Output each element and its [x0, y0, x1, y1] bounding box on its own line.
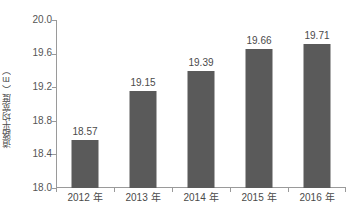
- y-tick-label: 18.4: [20, 149, 52, 159]
- y-tick-label: 18.0: [20, 183, 52, 193]
- x-cat-label: 2015 年: [241, 192, 276, 204]
- bar-group: 19.15: [114, 20, 172, 188]
- bar-group: 19.71: [288, 20, 346, 188]
- bar-chart: 道路平均宽度（m） 20.0 19.6 19.2 18.8 18.4 18.0 …: [0, 0, 355, 213]
- x-axis-category-labels: 2012 年 2013 年 2014 年 2015 年 2016 年: [56, 192, 346, 208]
- x-cat-label: 2014 年: [183, 192, 218, 204]
- bar-group: 19.39: [172, 20, 230, 188]
- bar[interactable]: [72, 140, 99, 188]
- plot-area: 18.57 19.15 19.39 19.66 19.71: [56, 20, 346, 188]
- y-tick-label: 19.2: [20, 82, 52, 92]
- x-cat-label: 2016 年: [299, 192, 334, 204]
- y-axis-title: 道路平均宽度（m）: [1, 50, 17, 165]
- bar[interactable]: [246, 49, 273, 188]
- x-cat-label: 2012 年: [67, 192, 102, 204]
- bar-group: 19.66: [230, 20, 288, 188]
- x-cat-label: 2013 年: [125, 192, 160, 204]
- bar[interactable]: [188, 71, 215, 188]
- bars-layer: 18.57 19.15 19.39 19.66 19.71: [56, 20, 346, 188]
- y-tick-label: 18.8: [20, 116, 52, 126]
- bar-value-label: 19.39: [188, 57, 213, 68]
- bar-value-label: 19.15: [130, 77, 155, 88]
- y-axis-tick-labels: 20.0 19.6 19.2 18.8 18.4 18.0: [18, 0, 52, 213]
- y-tick-label: 20.0: [20, 15, 52, 25]
- y-tick-label: 19.6: [20, 48, 52, 58]
- bar[interactable]: [304, 44, 331, 188]
- bar-value-label: 19.71: [304, 30, 329, 41]
- bar-value-label: 19.66: [246, 35, 271, 46]
- bar-value-label: 18.57: [72, 126, 97, 137]
- bar[interactable]: [130, 91, 157, 188]
- bar-group: 18.57: [56, 20, 114, 188]
